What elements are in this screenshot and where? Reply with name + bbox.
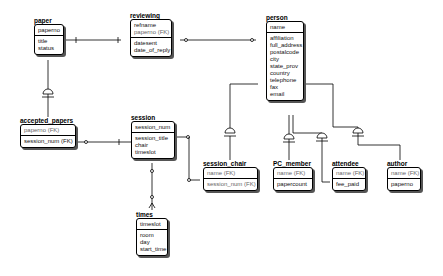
key-attribute: name (FK)	[277, 170, 309, 177]
entity-pc-member[interactable]: PC_member name (FK) papercount	[273, 160, 313, 191]
entity-title: session	[131, 114, 175, 121]
entity-title: attendee	[332, 160, 366, 167]
attribute: session_title	[135, 135, 171, 142]
entity-title: times	[136, 211, 168, 218]
attribute: fee_paid	[336, 181, 362, 188]
key-attribute: session_num	[135, 124, 171, 131]
key-attribute: paperno (FK)	[24, 127, 72, 134]
attribute: chair	[135, 142, 171, 149]
entity-attendee[interactable]: attendee name (FK) fee_paid	[332, 160, 366, 191]
key-attribute: name	[270, 24, 300, 31]
entity-session-chair[interactable]: session_chair name (FK) session_num (FK)	[203, 160, 258, 191]
entity-accepted-papers[interactable]: accepted_papers paperno (FK) session_num…	[20, 117, 76, 148]
attribute: city	[270, 56, 300, 63]
key-attribute: name (FK)	[336, 170, 362, 177]
attribute: telephone	[270, 77, 300, 84]
entity-title: accepted_papers	[20, 117, 76, 124]
attribute: session_num (FK)	[207, 181, 254, 188]
attribute: date_of_reply	[134, 47, 168, 54]
entity-paper[interactable]: paper paperno title status	[34, 17, 64, 55]
attribute: country	[270, 70, 300, 77]
attribute: session_num (FK)	[24, 138, 72, 145]
attribute: datesent	[134, 40, 168, 47]
key-attribute: name (FK)	[391, 170, 417, 177]
attribute: papercount	[277, 181, 309, 188]
attribute: fax	[270, 84, 300, 91]
attribute: title	[38, 38, 60, 45]
attribute: postalcode	[270, 49, 300, 56]
entity-reviewing[interactable]: reviewing refname paperno (FK) datesent …	[130, 12, 172, 57]
entity-title: session_chair	[203, 160, 258, 167]
key-attribute: paperno (FK)	[134, 29, 168, 36]
entity-times[interactable]: times timeslot room day start_time	[136, 211, 168, 256]
entity-title: paper	[34, 17, 64, 24]
attribute: email	[270, 91, 300, 98]
attribute: start_time	[140, 246, 164, 253]
key-attribute: timeslot	[140, 221, 164, 228]
attribute: full_address	[270, 42, 300, 49]
attribute: timeslot	[135, 149, 171, 156]
key-attribute: name (FK)	[207, 170, 254, 177]
key-attribute: refname	[134, 22, 168, 29]
attribute: affiliation	[270, 35, 300, 42]
entity-title: author	[387, 160, 421, 167]
entity-title: person	[266, 14, 304, 21]
entity-person[interactable]: person name affiliation full_address pos…	[266, 14, 304, 101]
attribute: room	[140, 232, 164, 239]
key-attribute: paperno	[38, 27, 60, 34]
entity-title: PC_member	[273, 160, 313, 167]
attribute: day	[140, 239, 164, 246]
entity-session[interactable]: session session_num session_title chair …	[131, 114, 175, 159]
entity-title: reviewing	[130, 12, 172, 19]
attribute: paperno	[391, 181, 417, 188]
attribute: state_prov	[270, 63, 300, 70]
attribute: status	[38, 45, 60, 52]
entity-author[interactable]: author name (FK) paperno	[387, 160, 421, 191]
